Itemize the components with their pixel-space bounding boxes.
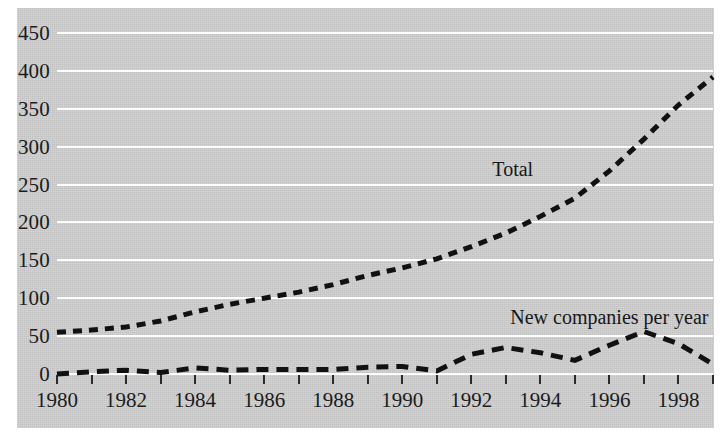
x-axis-tick-label: 1984: [174, 388, 216, 413]
x-axis-tick-labels: 1980198219841986198819901992199419961998: [57, 0, 713, 445]
x-axis-tick-label: 1980: [36, 388, 78, 413]
y-axis-tick-label: 50: [29, 324, 50, 349]
x-axis-tick-label: 1988: [312, 388, 354, 413]
y-axis-tick-label: 0: [39, 362, 50, 387]
y-axis-tick-label: 150: [18, 248, 50, 273]
x-axis-tick-label: 1982: [105, 388, 147, 413]
y-axis-tick-labels: 050100150200250300350400450: [0, 33, 50, 374]
x-axis-tick-label: 1996: [588, 388, 630, 413]
y-axis-tick-label: 400: [18, 58, 50, 83]
chart-figure: 050100150200250300350400450 TotalNew com…: [0, 0, 723, 445]
y-axis-tick-label: 450: [18, 21, 50, 46]
y-axis-tick-label: 250: [18, 172, 50, 197]
y-axis-tick-label: 300: [18, 134, 50, 159]
x-axis-tick-label: 1998: [657, 388, 699, 413]
y-axis-tick-label: 200: [18, 210, 50, 235]
x-axis-tick-label: 1992: [450, 388, 492, 413]
y-axis-tick-label: 350: [18, 96, 50, 121]
x-axis-tick-label: 1990: [381, 388, 423, 413]
y-axis-tick-label: 100: [18, 286, 50, 311]
x-axis-tick-label: 1994: [519, 388, 561, 413]
x-axis-tick-label: 1986: [243, 388, 285, 413]
